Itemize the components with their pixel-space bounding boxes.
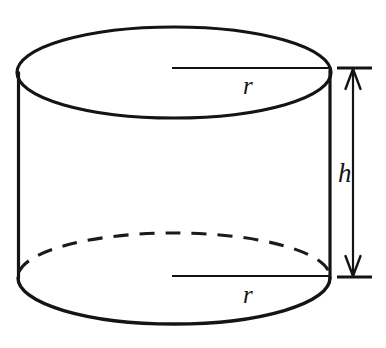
radius-label-bottom: r: [243, 282, 253, 307]
cylinder-top-ellipse: [17, 27, 331, 118]
radius-label-top: r: [243, 73, 253, 98]
height-label: h: [338, 160, 352, 187]
cylinder-drawing: [0, 0, 386, 348]
cylinder-figure: r r h: [0, 0, 386, 348]
